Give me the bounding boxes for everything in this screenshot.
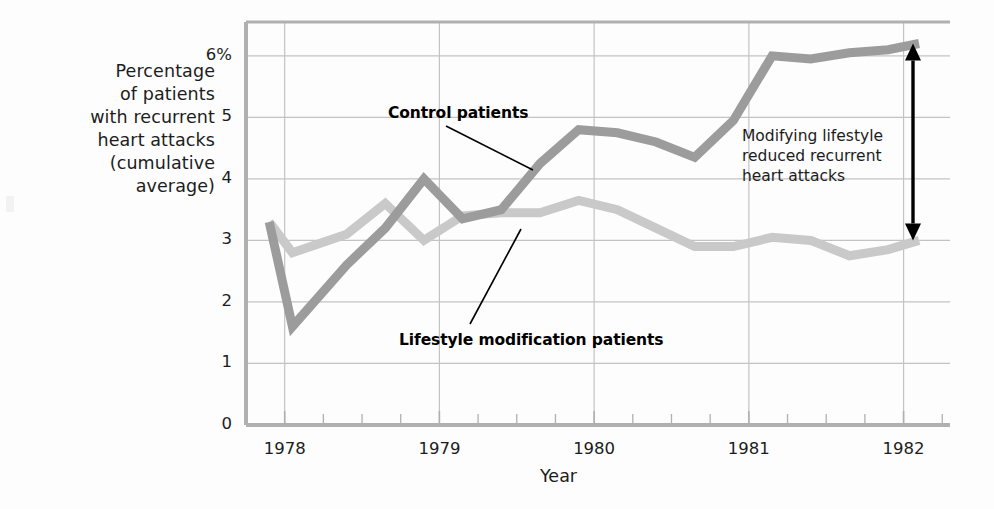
x-tick-label: 1978 — [250, 439, 320, 458]
x-axis-ticks — [285, 411, 943, 423]
y-tick-label: 2 — [170, 291, 232, 310]
y-tick-label: 5 — [170, 106, 232, 125]
y-tick-label: 4 — [170, 168, 232, 187]
y-tick-label: 3 — [170, 229, 232, 248]
chart-plot — [0, 0, 994, 509]
annotation-leader-lines — [446, 126, 533, 324]
x-tick-label: 1981 — [714, 439, 784, 458]
chart-figure: Percentage of patients with recurrent he… — [0, 0, 994, 509]
gridlines — [246, 22, 950, 425]
y-tick-label: 0 — [170, 414, 232, 433]
lifestyle-modification-patients-label: Lifestyle modification patients — [399, 331, 663, 349]
x-tick-label: 1982 — [869, 439, 939, 458]
control-patients-label: Control patients — [388, 104, 528, 122]
y-tick-label: 6% — [170, 45, 232, 64]
difference-callout-text: Modifying lifestyle reduced recurrent he… — [742, 126, 883, 186]
difference-arrow — [905, 44, 921, 241]
x-tick-label: 1980 — [559, 439, 629, 458]
x-tick-label: 1979 — [404, 439, 474, 458]
axis-lines — [246, 22, 950, 425]
y-tick-label: 1 — [170, 352, 232, 371]
